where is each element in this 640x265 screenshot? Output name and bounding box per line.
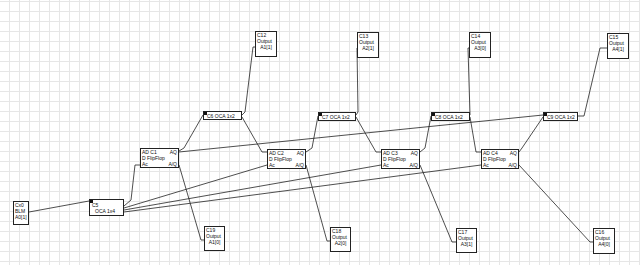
diagram-canvas[interactable]: C12 Output A1[1] C13 Output A2[1] C14 Ou… (0, 0, 640, 265)
ff-bottom-row: AcA/Q (382, 162, 419, 168)
block-label: C6 OCA 1x2 (207, 113, 235, 119)
ff-bottom-row: AcA/Q (141, 161, 178, 167)
block-label: C7 OCA 1x2 (322, 114, 350, 120)
signal-label: A1[0] (205, 239, 224, 245)
signal-label: A0[1] (14, 214, 28, 220)
pin-marker (544, 113, 547, 116)
output-block-c16[interactable]: C16 Output A4[0] (593, 228, 615, 254)
oca-block-c8[interactable]: C8 OCA 1x2 (431, 112, 470, 121)
output-block-c13[interactable]: C13 Output A2[1] (357, 32, 379, 58)
output-block-c18[interactable]: C18 Output A2[0] (330, 227, 351, 252)
signal-label: A4[0] (594, 241, 614, 247)
pin-marker (432, 113, 435, 116)
block-label: C8 OCA 1x2 (435, 114, 463, 120)
splitter-block-c5[interactable]: C5 OCA 1x4 (89, 199, 124, 216)
pin-marker (90, 200, 93, 203)
oca-block-c6[interactable]: C6 OCA 1x2 (203, 111, 242, 120)
signal-label: A3[1] (457, 241, 476, 247)
flipflop-block-c4[interactable]: AD C4AQ D FlipFlop AcA/Q (481, 149, 519, 169)
source-block-cx0[interactable]: Cx0 BLM A0[1] (13, 201, 29, 225)
block-id: C5 (90, 200, 123, 208)
pin-marker (319, 113, 322, 116)
flipflop-block-c2[interactable]: AD C2AQ D FlipFlop AcA/Q (267, 149, 306, 169)
signal-label: A2[0] (331, 240, 350, 246)
output-block-c17[interactable]: C17 Output A3[1] (456, 228, 477, 253)
block-label: C9 OCA 1x2 (547, 114, 575, 120)
ff-bottom-row: AcA/Q (268, 162, 305, 168)
pin-marker (204, 112, 207, 115)
signal-label: A2[1] (358, 45, 378, 51)
output-block-c15[interactable]: C15 Output A4[1] (607, 33, 629, 59)
oca-block-c9[interactable]: C9 OCA 1x2 (543, 112, 578, 121)
flipflop-block-c3[interactable]: AD C3AQ D FlipFlop AcA/Q (381, 149, 420, 169)
signal-label: A1[1] (256, 44, 276, 50)
signal-label: A3[0] (470, 45, 490, 51)
output-block-c12[interactable]: C12 Output A1[1] (255, 31, 277, 57)
ff-bottom-row: AcA/Q (482, 162, 518, 168)
oca-block-c7[interactable]: C7 OCA 1x2 (318, 112, 356, 121)
block-label: OCA 1x4 (90, 208, 123, 214)
signal-label: A4[1] (608, 46, 628, 52)
output-block-c14[interactable]: C14 Output A3[0] (469, 32, 491, 58)
output-block-c19[interactable]: C19 Output A1[0] (204, 226, 225, 251)
flipflop-block-c1[interactable]: AD C1AQ D FlipFlop AcA/Q (140, 148, 179, 168)
wires (0, 0, 640, 265)
